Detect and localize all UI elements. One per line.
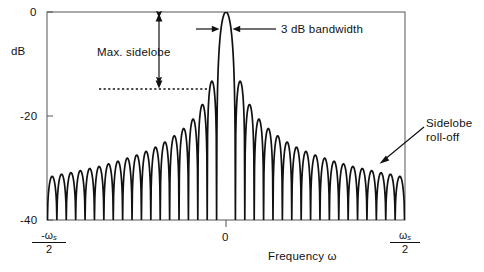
x-tick-label-center: 0	[222, 231, 229, 243]
x-tick-label-left-denominator: 2	[32, 243, 66, 255]
y-tick-label-0: 0	[30, 6, 37, 18]
x-tick-label-right: ωs 2	[390, 230, 420, 255]
bandwidth-arrow-right-head	[233, 26, 241, 33]
x-tick-label-left: -ωs 2	[32, 230, 66, 255]
x-tick-label-left-numerator: -ωs	[32, 230, 66, 243]
rolloff-leader-shaft	[384, 127, 424, 160]
spectrum-trace	[47, 12, 404, 220]
y-axis-label: dB	[11, 45, 25, 57]
annotation-sidelobe-rolloff: Sidelobe roll-off	[426, 117, 472, 144]
x-tick-left-subscript: s	[53, 233, 57, 242]
max-sidelobe-arrow-head-up	[156, 14, 163, 22]
x-tick-right-subscript: s	[407, 233, 411, 242]
annotation-sidelobe-rolloff-line1: Sidelobe	[426, 117, 472, 129]
max-sidelobe-arrow-head-down	[156, 81, 163, 89]
x-tick-left-omega: -ω	[41, 229, 53, 241]
x-tick-label-right-numerator: ωs	[390, 230, 420, 243]
annotation-sidelobe-rolloff-line2: roll-off	[426, 131, 459, 143]
bandwidth-arrow-left-head	[212, 26, 220, 33]
y-tick-label-minus40: -40	[20, 214, 37, 226]
y-tick-label-minus20: -20	[20, 110, 37, 122]
x-tick-label-right-denominator: 2	[390, 243, 420, 255]
x-tick-right-omega: ω	[399, 229, 407, 241]
x-axis-label: Frequency ω	[268, 250, 337, 262]
annotation-max-sidelobe: Max. sidelobe	[97, 46, 171, 58]
annotation-3db-bandwidth: 3 dB bandwidth	[281, 23, 363, 35]
figure-window-spectrum: 0 -20 -40 dB -ωs 2 0 ωs 2 Frequency ω Ma…	[0, 0, 484, 272]
plot-frame	[47, 12, 405, 220]
